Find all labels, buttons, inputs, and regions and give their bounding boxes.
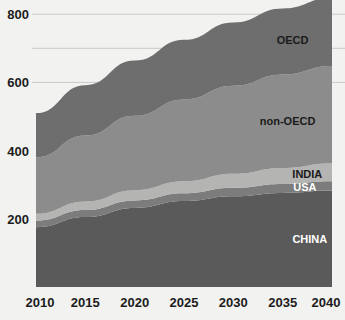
stacked-area-chart: 200400600800 201020152020202520302035204… [0, 0, 345, 320]
series-label-usa: USA [293, 181, 316, 193]
series-label-oecd: OECD [277, 34, 309, 46]
x-axis-tick-2040: 2040 [312, 295, 341, 310]
x-axis-tick-group: 2010201520202025203020352040 [26, 295, 341, 310]
y-axis-tick-800: 800 [7, 7, 29, 22]
series-label-india: INDIA [292, 168, 322, 180]
x-axis-tick-2020: 2020 [120, 295, 149, 310]
x-axis-tick-2025: 2025 [170, 295, 199, 310]
x-axis-tick-2030: 2030 [219, 295, 248, 310]
y-axis-tick-200: 200 [7, 212, 29, 227]
series-label-non-oecd: non-OECD [260, 115, 316, 127]
y-axis-tick-400: 400 [7, 144, 29, 159]
x-axis-tick-2010: 2010 [26, 295, 55, 310]
y-axis-tick-600: 600 [7, 75, 29, 90]
series-label-china: CHINA [292, 233, 327, 245]
chart-svg: 200400600800 201020152020202520302035204… [0, 0, 345, 320]
x-axis-tick-2015: 2015 [71, 295, 100, 310]
x-axis-tick-2035: 2035 [268, 295, 297, 310]
